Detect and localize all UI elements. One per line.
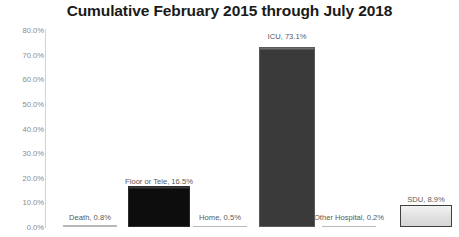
bar-sdu[interactable] <box>400 205 452 227</box>
y-tick-70: 70.0% <box>0 50 44 59</box>
bar-home[interactable] <box>193 226 247 228</box>
y-tick-80: 80.0% <box>0 26 44 35</box>
bar-icu[interactable] <box>259 47 315 227</box>
y-tick-10: 10.0% <box>0 198 44 207</box>
y-tick-50: 50.0% <box>0 99 44 108</box>
y-tick-30: 30.0% <box>0 149 44 158</box>
bar-other-hospital[interactable] <box>322 226 376 227</box>
bar-floor-or-tele[interactable] <box>128 186 190 227</box>
bar-label-death: Death, 0.8% <box>69 213 111 222</box>
bar-chart: Cumulative February 2015 through July 20… <box>0 0 459 237</box>
bar-label-sdu: SDU, 8.9% <box>407 195 445 204</box>
plot-area: Death, 0.8% Floor or Tele, 16.5% Home, 0… <box>46 30 459 227</box>
y-tick-0: 0.0% <box>0 223 44 232</box>
y-tick-60: 60.0% <box>0 75 44 84</box>
bar-label-home: Home, 0.5% <box>199 213 241 222</box>
bar-label-floor-or-tele: Floor or Tele, 16.5% <box>125 177 193 186</box>
y-axis: 80.0% 70.0% 60.0% 50.0% 40.0% 30.0% 20.0… <box>0 0 44 237</box>
y-tick-40: 40.0% <box>0 124 44 133</box>
bar-death[interactable] <box>63 225 117 227</box>
bar-label-other-hospital: Other Hospital, 0.2% <box>314 213 384 222</box>
chart-title: Cumulative February 2015 through July 20… <box>0 2 459 20</box>
bar-label-icu: ICU, 73.1% <box>268 32 307 41</box>
y-tick-20: 20.0% <box>0 173 44 182</box>
